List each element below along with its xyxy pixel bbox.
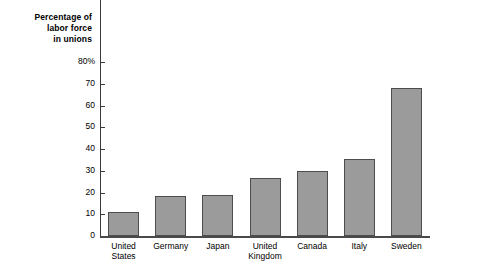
y-axis-label-text: 40 xyxy=(54,144,95,153)
x-axis-line xyxy=(100,236,430,238)
y-axis-label-20: 20 xyxy=(54,188,95,197)
y-axis-label-text: 0 xyxy=(54,231,95,240)
x-axis-label-canada: Canada xyxy=(289,241,336,251)
y-axis-label-0: 0 xyxy=(54,231,95,240)
y-axis-label-60: 60 xyxy=(54,101,95,110)
y-axis-title-line-2: labor force xyxy=(8,23,92,34)
y-axis-label-text: 20 xyxy=(54,188,95,197)
y-axis-title-line-1: Percentage of xyxy=(8,12,92,23)
y-axis-label-text: 50 xyxy=(54,122,95,131)
x-axis-label-germany: Germany xyxy=(147,241,194,251)
x-axis-label-line: Kingdom xyxy=(241,251,288,261)
y-axis-label-80%: 80% xyxy=(54,57,95,66)
y-axis-label-text: 80% xyxy=(54,57,95,66)
x-axis-label-line: Canada xyxy=(289,241,336,251)
x-axis-label-line: United xyxy=(100,241,147,251)
y-axis-label-10: 10 xyxy=(54,209,95,218)
bar-sweden xyxy=(391,88,422,236)
x-axis-label-line: Italy xyxy=(336,241,383,251)
y-axis-title: Percentage of labor force in unions xyxy=(8,12,92,45)
x-axis-label-line: United xyxy=(241,241,288,251)
bar-japan xyxy=(202,195,233,236)
bar-united-kingdom xyxy=(250,178,281,236)
x-axis-label-italy: Italy xyxy=(336,241,383,251)
x-axis-label-japan: Japan xyxy=(194,241,241,251)
y-axis-label-text: 30 xyxy=(54,166,95,175)
x-axis-label-united-states: UnitedStates xyxy=(100,241,147,261)
x-axis-label-line: Japan xyxy=(194,241,241,251)
y-axis-label-text: 70 xyxy=(54,79,95,88)
bar-united-states xyxy=(108,212,139,236)
x-axis-label-line: Germany xyxy=(147,241,194,251)
bar-chart: Percentage of labor force in unions 0102… xyxy=(0,0,480,271)
x-axis-label-line: States xyxy=(100,251,147,261)
bar-canada xyxy=(297,171,328,236)
y-axis-label-40: 40 xyxy=(54,144,95,153)
x-axis-label-line: Sweden xyxy=(383,241,430,251)
y-axis-label-70: 70 xyxy=(54,79,95,88)
y-axis-title-line-3: in unions xyxy=(8,34,92,45)
y-axis-label-30: 30 xyxy=(54,166,95,175)
y-axis-label-50: 50 xyxy=(54,122,95,131)
x-axis-label-sweden: Sweden xyxy=(383,241,430,251)
y-axis-label-text: 60 xyxy=(54,101,95,110)
bar-italy xyxy=(344,159,375,236)
plot-area xyxy=(100,0,430,236)
y-axis-label-text: 10 xyxy=(54,209,95,218)
bar-germany xyxy=(155,196,186,236)
x-axis-label-united-kingdom: UnitedKingdom xyxy=(241,241,288,261)
